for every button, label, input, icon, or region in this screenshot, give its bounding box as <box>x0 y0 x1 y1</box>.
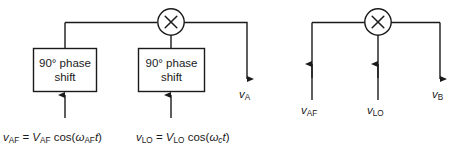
eq-af-amp-sub: AF <box>40 136 50 145</box>
equation-af: vAF = VAF cos(ωAFt) <box>3 131 102 144</box>
eq-lo-lhs-sub: LO <box>142 136 153 145</box>
eq-af-lhs-base: v <box>3 131 9 143</box>
output-label-v-a-base: v <box>239 88 245 100</box>
output-label-v-a-sub: A <box>245 93 250 102</box>
input-label-v-af-sub: AF <box>307 109 317 118</box>
phase-shift-lo-line2: shift <box>138 70 205 84</box>
output-label-v-b: vB <box>432 88 443 101</box>
input-label-v-af-base: v <box>301 104 307 116</box>
input-label-v-af-right: vAF <box>301 104 317 117</box>
eq-af-close-paren: ) <box>98 131 102 143</box>
eq-af-omega-sub: AF <box>84 136 94 145</box>
phase-shift-lo-line1: 90° phase <box>138 56 205 70</box>
phase-shift-af-line1: 90° phase <box>33 56 97 70</box>
eq-lo-omega-sub: c <box>218 136 222 145</box>
input-label-v-lo-right: vLO <box>367 104 384 117</box>
phase-shift-af-line2: shift <box>33 70 97 84</box>
output-label-v-b-base: v <box>432 88 438 100</box>
equation-lo: vLO = VLO cos(ωct) <box>136 131 229 144</box>
eq-lo-lhs-base: v <box>136 131 142 143</box>
eq-lo-omega: ω <box>209 131 218 143</box>
eq-lo-close-paren: ) <box>226 131 230 143</box>
eq-af-equals: = <box>22 131 29 143</box>
eq-af-amp-base: V <box>32 131 40 143</box>
eq-lo-equals: = <box>156 131 163 143</box>
eq-af-lhs-sub: AF <box>9 136 19 145</box>
input-label-v-lo-base: v <box>367 104 373 116</box>
eq-lo-fn: cos <box>188 131 206 143</box>
output-label-v-a: vA <box>239 88 250 101</box>
eq-lo-amp-sub: LO <box>173 136 184 145</box>
input-label-v-lo-sub: LO <box>373 109 384 118</box>
eq-af-fn: cos <box>54 131 72 143</box>
diagram-canvas: 90° phase shift 90° phase shift vA vAF =… <box>0 0 468 154</box>
phase-shift-af-label: 90° phase shift <box>33 56 97 84</box>
output-label-v-b-sub: B <box>438 93 443 102</box>
phase-shift-lo-label: 90° phase shift <box>138 56 205 84</box>
